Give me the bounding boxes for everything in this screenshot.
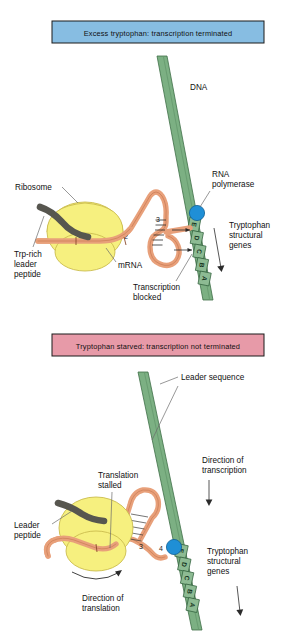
banner-label-top: Excess tryptophan: transcription termina…: [84, 29, 233, 38]
label-trp-genes-top-line1: Tryptophan: [229, 221, 271, 230]
label-dna-top: DNA: [190, 83, 208, 92]
label-translation-stalled-line2: stalled: [98, 481, 122, 490]
ribosome-small-subunit-bottom: [66, 531, 126, 571]
banner-tryptophan-starved: Tryptophan starved: transcription not te…: [52, 334, 264, 356]
mrna-segment-4-bottom: 4: [159, 545, 163, 552]
label-trp-genes-top-line3: genes: [229, 241, 251, 250]
label-trp-genes-bottom-line2: structural: [207, 557, 241, 566]
mrna-segment-3-bottom: 3: [139, 543, 143, 550]
label-ribosome-top: Ribosome: [15, 183, 52, 192]
mrna-segment-3-top: 3: [156, 216, 160, 223]
label-mrna-top: mRNA: [118, 261, 143, 270]
label-leader-peptide-line2: peptide: [14, 531, 41, 540]
label-direction-transcription-line1: Direction of: [202, 456, 244, 465]
label-leader-peptide-line1: Leader: [14, 521, 40, 530]
label-translation-stalled-line1: Translation: [98, 471, 139, 480]
banner-excess-tryptophan: Excess tryptophan: transcription termina…: [52, 21, 264, 43]
label-leader-sequence: Leader sequence: [181, 373, 245, 382]
label-rna-polymerase-line1: RNA: [212, 170, 230, 179]
label-trp-genes-bottom-line1: Tryptophan: [207, 547, 249, 556]
label-rna-polymerase-line2: polymerase: [212, 180, 255, 189]
label-direction-translation-line2: translation: [82, 604, 120, 613]
label-direction-translation-line1: Direction of: [82, 594, 124, 603]
label-trp-genes-bottom-line3: genes: [207, 567, 229, 576]
label-transcription-blocked-line1: Transcription: [133, 283, 180, 292]
label-trp-rich-line1: Trp-rich: [14, 250, 42, 259]
trp-operon-attenuation-figure: Excess tryptophan: transcription termina…: [0, 0, 291, 641]
rna-polymerase-bottom: [166, 539, 181, 554]
banner-label-bottom: Tryptophan starved: transcription not te…: [76, 342, 240, 351]
rna-polymerase-top: [189, 205, 204, 220]
label-trp-rich-line2: leader: [14, 260, 37, 269]
label-trp-rich-line3: peptide: [14, 270, 41, 279]
label-transcription-blocked-line2: blocked: [133, 293, 162, 302]
label-trp-genes-top-line2: structural: [229, 231, 263, 240]
label-direction-transcription-line2: transcription: [202, 466, 247, 475]
